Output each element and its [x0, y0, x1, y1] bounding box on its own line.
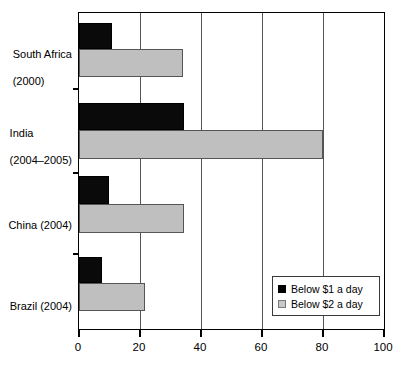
- bar-china-below-1-dollar: [79, 176, 109, 204]
- bar-brazil-below-2-dollar: [79, 283, 145, 311]
- x-axis-label-0: 0: [58, 341, 98, 353]
- legend-swatch-black-square-icon: [278, 285, 286, 293]
- y-axis-tick-2: [73, 172, 79, 174]
- bar-india-below-1-dollar: [79, 103, 184, 130]
- y-axis-label-india-line1: India: [10, 127, 72, 141]
- x-axis-tick-0: [78, 330, 80, 337]
- x-axis-tick-60: [261, 330, 263, 337]
- plot-area: Below $1 a day Below $2 a day: [78, 12, 385, 330]
- legend-label-below-1-dollar: Below $1 a day: [291, 283, 363, 295]
- x-axis-tick-20: [139, 330, 141, 337]
- y-axis-label-brazil: Brazil (2004): [10, 286, 72, 327]
- gridline-60: [262, 13, 263, 329]
- y-axis-label-brazil-line1: Brazil (2004): [10, 300, 72, 314]
- y-axis-tick-3: [73, 253, 79, 255]
- y-axis-label-india-line2: (2004–2005): [10, 154, 72, 168]
- x-axis-label-60: 60: [241, 341, 281, 353]
- legend-item-below-2-dollar: Below $2 a day: [278, 296, 374, 311]
- x-axis-tick-100: [383, 330, 385, 337]
- legend-item-below-1-dollar: Below $1 a day: [278, 281, 374, 296]
- legend-swatch-gray-square-icon: [278, 300, 286, 308]
- y-axis-label-china-line1: China (2004): [8, 219, 72, 233]
- bar-india-below-2-dollar: [79, 130, 323, 159]
- legend: Below $1 a day Below $2 a day: [272, 276, 380, 316]
- bar-south-africa-below-2-dollar: [79, 49, 183, 77]
- y-axis-label-south-africa: South Africa (2000): [13, 34, 72, 102]
- x-axis-tick-80: [322, 330, 324, 337]
- y-axis-label-india: India (2004–2005): [10, 113, 72, 181]
- x-axis-label-20: 20: [119, 341, 159, 353]
- y-axis-label-south-africa-line2: (2000): [13, 75, 72, 89]
- y-axis-label-china: China (2004): [8, 205, 72, 246]
- x-axis-label-40: 40: [180, 341, 220, 353]
- y-axis-tick-1: [73, 88, 79, 90]
- poverty-bar-chart: Below $1 a day Below $2 a day South Afri…: [0, 0, 408, 366]
- bar-china-below-2-dollar: [79, 204, 184, 233]
- gridline-40: [201, 13, 202, 329]
- x-axis-label-100: 100: [363, 341, 403, 353]
- bar-south-africa-below-1-dollar: [79, 23, 112, 49]
- legend-label-below-2-dollar: Below $2 a day: [291, 298, 363, 310]
- x-axis-label-80: 80: [302, 341, 342, 353]
- x-axis-tick-40: [200, 330, 202, 337]
- y-axis-label-south-africa-line1: South Africa: [13, 48, 72, 62]
- bar-brazil-below-1-dollar: [79, 257, 102, 283]
